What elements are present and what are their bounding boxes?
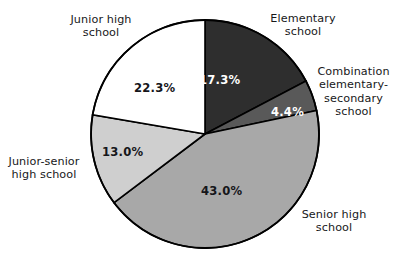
category-label-junior-high-school: Junior high school: [57, 13, 145, 40]
category-label-elementary-school: Elementary school: [253, 12, 353, 39]
value-label-combination-elementary-secondary-school: 4.4%: [271, 105, 304, 119]
value-label-junior-senior-high-school: 13.0%: [102, 145, 143, 159]
category-label-junior-senior-high-school: Junior-senior high school: [2, 155, 86, 182]
value-label-junior-high-school: 22.3%: [134, 81, 175, 95]
chart-canvas: 17.3% 4.4% 43.0% 13.0% 22.3% Elementary …: [0, 0, 396, 264]
value-label-senior-high-school: 43.0%: [201, 184, 242, 198]
value-label-elementary-school: 17.3%: [199, 73, 240, 87]
category-label-combination-elementary-secondary-school: Combination elementary- secondary school: [311, 65, 396, 119]
pie-slices: [91, 20, 319, 248]
category-label-senior-high-school: Senior high school: [293, 208, 375, 235]
